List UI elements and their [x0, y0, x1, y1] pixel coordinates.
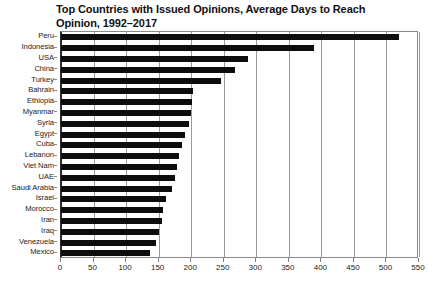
bar-row	[61, 237, 417, 248]
category-label: Egypt	[0, 128, 57, 139]
bar	[61, 153, 179, 159]
value-axis-ticks	[60, 258, 418, 262]
bar-row	[61, 205, 417, 216]
bar-row	[61, 97, 417, 108]
category-tick	[54, 176, 57, 177]
bar-row	[61, 183, 417, 194]
value-tick-label: 0	[58, 263, 62, 273]
value-tick-400	[320, 258, 321, 262]
category-tick	[54, 47, 57, 48]
category-tick	[54, 219, 57, 220]
category-tick	[54, 122, 57, 123]
bar-row	[61, 86, 417, 97]
bars-layer	[61, 32, 417, 257]
category-label: Lebanon	[0, 150, 57, 161]
value-tick-label: 500	[379, 263, 392, 273]
value-tick-300	[255, 258, 256, 262]
value-tick-label: 350	[281, 263, 294, 273]
bar-row	[61, 151, 417, 162]
bar-row	[61, 194, 417, 205]
category-tick	[54, 241, 57, 242]
category-tick	[54, 90, 57, 91]
bar	[61, 218, 162, 224]
value-tick-0	[60, 258, 61, 262]
bar-row	[61, 75, 417, 86]
bar	[61, 186, 172, 192]
plot-area	[60, 31, 418, 258]
category-label: Cuba	[0, 139, 57, 150]
category-tick	[54, 252, 57, 253]
category-tick	[54, 144, 57, 145]
category-label: Indonesia	[0, 42, 57, 53]
bar-chart-figure: Top Countries with Issued Opinions, Aver…	[0, 0, 428, 282]
bar	[61, 56, 248, 62]
gridline-550	[419, 32, 420, 257]
value-axis-labels: 050100150200250300350400450500550	[60, 263, 418, 277]
category-label: Venezuela	[0, 236, 57, 247]
category-label: Mexico	[0, 247, 57, 258]
bar-row	[61, 162, 417, 173]
category-label: China	[0, 63, 57, 74]
category-axis: PeruIndonesiaUSAChinaTurkeyBahrainEthiop…	[0, 31, 57, 258]
category-label: Myanmar	[0, 107, 57, 118]
bar-row	[61, 226, 417, 237]
value-tick-label: 550	[411, 263, 424, 273]
category-tick	[54, 198, 57, 199]
category-label: Syria	[0, 117, 57, 128]
value-tick-label: 400	[314, 263, 327, 273]
bar	[61, 175, 175, 181]
bar-row	[61, 64, 417, 75]
category-tick	[54, 111, 57, 112]
chart-title: Top Countries with Issued Opinions, Aver…	[56, 3, 406, 30]
bar	[61, 240, 156, 246]
category-label: Iran	[0, 215, 57, 226]
value-tick-250	[223, 258, 224, 262]
category-tick	[54, 187, 57, 188]
value-tick-450	[353, 258, 354, 262]
category-tick	[54, 36, 57, 37]
bar	[61, 67, 235, 73]
bar-row	[61, 43, 417, 54]
bar	[61, 99, 192, 105]
bar	[61, 142, 182, 148]
bar-row	[61, 54, 417, 65]
category-tick	[54, 209, 57, 210]
bar-row	[61, 108, 417, 119]
category-tick	[54, 230, 57, 231]
bar	[61, 45, 314, 51]
value-tick-label: 100	[118, 263, 131, 273]
bar-row	[61, 216, 417, 227]
value-tick-label: 150	[151, 263, 164, 273]
bar	[61, 34, 399, 40]
category-label: Israel	[0, 193, 57, 204]
category-label: Peru	[0, 31, 57, 42]
category-label: Morocco	[0, 204, 57, 215]
bar	[61, 132, 185, 138]
bar	[61, 229, 159, 235]
value-tick-label: 250	[216, 263, 229, 273]
bar	[61, 196, 166, 202]
bar	[61, 250, 150, 256]
category-tick	[54, 155, 57, 156]
category-tick	[54, 57, 57, 58]
value-tick-350	[288, 258, 289, 262]
category-label: USA	[0, 53, 57, 64]
category-tick	[54, 133, 57, 134]
value-tick-150	[158, 258, 159, 262]
value-tick-label: 450	[346, 263, 359, 273]
bar-row	[61, 32, 417, 43]
value-tick-550	[418, 258, 419, 262]
bar-row	[61, 172, 417, 183]
bar-row	[61, 140, 417, 151]
value-tick-label: 50	[88, 263, 97, 273]
value-tick-200	[190, 258, 191, 262]
bar	[61, 207, 163, 213]
value-tick-500	[385, 258, 386, 262]
category-label: Viet Nam	[0, 161, 57, 172]
bar-row	[61, 118, 417, 129]
value-tick-100	[125, 258, 126, 262]
category-tick	[54, 165, 57, 166]
category-label: Ethiopia	[0, 96, 57, 107]
category-label: Saudi Arabia	[0, 182, 57, 193]
bar	[61, 110, 191, 116]
